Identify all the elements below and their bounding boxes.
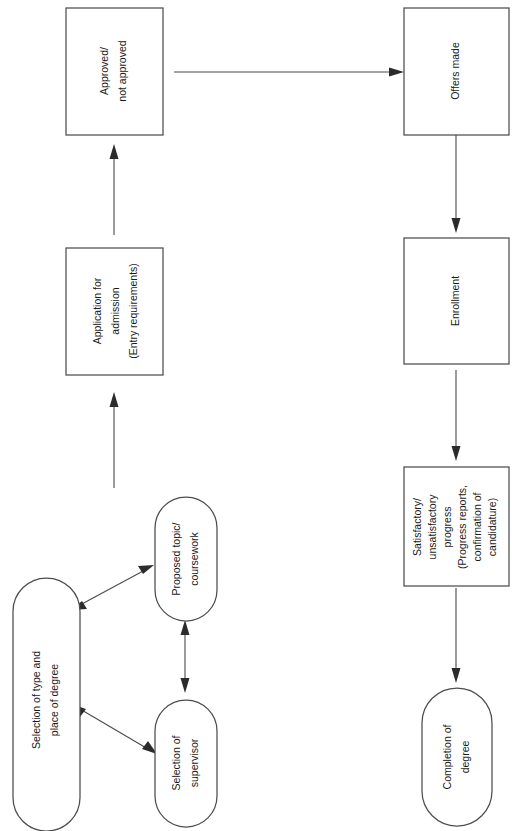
node-completion[interactable]: Completion of degree [422, 688, 492, 826]
edge-application-to-approved [110, 144, 119, 235]
edge-offers-to-enrollment [452, 135, 461, 233]
node-label-completion: Completion of [441, 725, 453, 790]
node-label-proposed-topic: Proposed topic/ [170, 522, 182, 595]
svg-text:progress: progress [441, 507, 453, 548]
node-progress[interactable]: Satisfactory/ unsatisfactory progress (P… [404, 467, 509, 586]
flowchart-canvas: Approved/ not approved Offers made Appli… [0, 0, 518, 831]
node-selection-type-place[interactable]: Selection of type and place of degree [13, 578, 80, 831]
node-label-selection-supervisor: Selection of [170, 735, 182, 790]
edge-enrollment-to-progress [452, 370, 461, 461]
node-offers-made[interactable]: Offers made [404, 8, 509, 135]
svg-text:place of degree: place of degree [48, 664, 60, 737]
edge-type-to-supervisor [71, 704, 157, 754]
edge-type-to-topic [71, 565, 154, 610]
node-label-progress: Satisfactory/ [411, 498, 423, 556]
edge-topic-supervisor [181, 620, 190, 693]
svg-text:(Progress reports,: (Progress reports, [456, 485, 468, 569]
node-application-admission[interactable]: Application for admission (Entry require… [66, 248, 163, 375]
node-enrollment[interactable]: Enrollment [404, 238, 509, 364]
edge-topic-to-application [110, 392, 119, 488]
node-label-selection-type-place: Selection of type and [30, 651, 42, 749]
svg-text:(Entry requirements): (Entry requirements) [127, 263, 139, 359]
node-label-application-admission: Application for [91, 277, 103, 344]
edge-approved-to-offers [174, 68, 404, 77]
svg-text:unsatisfactory: unsatisfactory [426, 494, 438, 560]
svg-text:confirmation of: confirmation of [471, 492, 483, 561]
node-proposed-topic[interactable]: Proposed topic/ coursework [155, 497, 217, 621]
svg-text:supervisor: supervisor [188, 738, 200, 787]
node-selection-supervisor[interactable]: Selection of supervisor [155, 700, 217, 827]
node-approved-not-approved[interactable]: Approved/ not approved [66, 8, 163, 135]
flowchart-diagram: Approved/ not approved Offers made Appli… [0, 0, 518, 831]
svg-text:admission: admission [109, 287, 121, 334]
svg-text:candidature): candidature) [486, 498, 498, 556]
node-label-offers-made: Offers made [449, 42, 461, 100]
edge-progress-to-completion [452, 588, 461, 683]
node-label-enrollment: Enrollment [449, 276, 461, 326]
svg-text:not approved: not approved [116, 40, 128, 101]
svg-text:degree: degree [459, 740, 471, 773]
svg-text:coursework: coursework [188, 531, 200, 585]
node-label-approved-not-approved: Approved/ [98, 47, 110, 95]
